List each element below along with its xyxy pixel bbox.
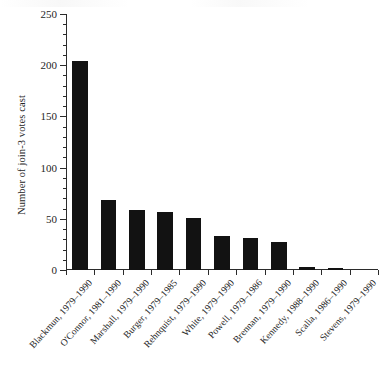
y-tick-minor bbox=[63, 96, 67, 97]
plot-area: 050100150200250 bbox=[66, 14, 378, 270]
y-tick-minor bbox=[63, 137, 67, 138]
bar-chart: Number of join-3 votes cast 050100150200… bbox=[0, 0, 389, 372]
x-axis-label: Powell, 1979–1986 bbox=[206, 277, 265, 340]
y-tick-minor bbox=[63, 24, 67, 25]
x-axis-label: Scalia, 1986–1990 bbox=[293, 277, 350, 338]
y-tick-minor bbox=[63, 260, 67, 261]
y-tick-minor bbox=[63, 147, 67, 148]
y-tick-major bbox=[60, 168, 66, 169]
y-tick-major bbox=[60, 14, 66, 15]
x-tick bbox=[378, 270, 379, 275]
x-tick bbox=[350, 270, 351, 275]
x-tick bbox=[321, 270, 322, 275]
bar bbox=[72, 61, 88, 270]
x-axis-label: White, 1979–1990 bbox=[180, 277, 236, 338]
bar bbox=[186, 218, 202, 270]
x-axis-label: Kennedy, 1988–1990 bbox=[258, 277, 322, 346]
y-tick-label: 250 bbox=[41, 8, 58, 20]
y-tick-major bbox=[60, 219, 66, 220]
x-axis-label: Burger, 1979–1985 bbox=[121, 277, 179, 340]
x-tick bbox=[151, 270, 152, 275]
y-tick-label: 50 bbox=[46, 213, 57, 225]
x-axis-label: O'Connor, 1981–1990 bbox=[57, 277, 123, 348]
y-tick-minor bbox=[63, 75, 67, 76]
bar bbox=[328, 268, 344, 270]
x-tick bbox=[94, 270, 95, 275]
y-tick-minor bbox=[63, 34, 67, 35]
bar bbox=[129, 210, 145, 270]
y-tick-minor bbox=[63, 106, 67, 107]
y-tick-major bbox=[60, 65, 66, 66]
x-axis-label: Rehnquist, 1979–1990 bbox=[141, 277, 208, 350]
bar bbox=[101, 200, 117, 270]
y-tick-minor bbox=[63, 209, 67, 210]
x-tick bbox=[265, 270, 266, 275]
x-axis-label: Marshall, 1979–1990 bbox=[87, 277, 151, 346]
x-tick bbox=[179, 270, 180, 275]
y-tick-minor bbox=[63, 55, 67, 56]
y-tick-minor bbox=[63, 188, 67, 189]
y-axis-title: Number of join-3 votes cast bbox=[16, 70, 27, 240]
y-tick-minor bbox=[63, 229, 67, 230]
bar bbox=[243, 238, 259, 270]
x-tick bbox=[123, 270, 124, 275]
bar bbox=[271, 242, 287, 270]
y-tick-minor bbox=[63, 239, 67, 240]
y-tick-label: 150 bbox=[41, 110, 58, 122]
y-tick-minor bbox=[63, 198, 67, 199]
y-tick-label: 0 bbox=[52, 264, 58, 276]
y-tick-minor bbox=[63, 127, 67, 128]
x-tick bbox=[66, 270, 67, 275]
x-axis-label: Brennan, 1979–1990 bbox=[230, 277, 293, 345]
y-tick-minor bbox=[63, 45, 67, 46]
bar bbox=[157, 212, 173, 270]
y-tick-minor bbox=[63, 86, 67, 87]
x-tick bbox=[293, 270, 294, 275]
y-tick-major bbox=[60, 116, 66, 117]
y-axis-line bbox=[66, 14, 67, 270]
y-tick-minor bbox=[63, 250, 67, 251]
x-axis-label: Stevens, 1979–1990 bbox=[317, 277, 378, 343]
y-tick-minor bbox=[63, 157, 67, 158]
x-axis-label: Blackmun, 1979–1990 bbox=[27, 277, 94, 350]
y-tick-label: 100 bbox=[41, 162, 58, 174]
y-tick-minor bbox=[63, 178, 67, 179]
bar bbox=[299, 267, 315, 270]
bar bbox=[214, 236, 230, 270]
scan-artifact bbox=[0, 0, 389, 7]
x-tick bbox=[208, 270, 209, 275]
x-tick bbox=[236, 270, 237, 275]
y-tick-label: 200 bbox=[41, 59, 58, 71]
